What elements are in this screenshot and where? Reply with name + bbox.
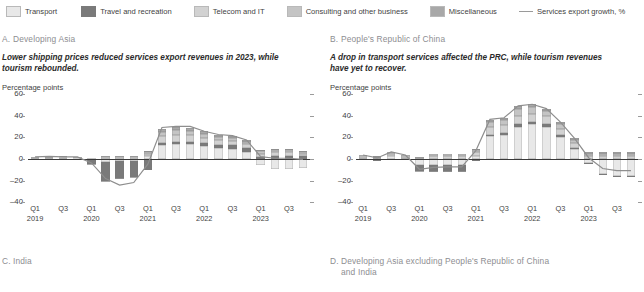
x-axis-labels: Q12019Q3Q12020Q3Q12021Q3Q12022Q3Q12023Q3: [28, 204, 310, 228]
y-axis-tick: [21, 137, 25, 138]
y-axis-label: –40: [327, 197, 351, 206]
y-axis-tick-right: [638, 116, 642, 117]
y-axis-label: 0: [327, 154, 351, 163]
y-axis-tick-right: [310, 181, 314, 182]
legend-label-miscellaneous: Miscellaneous: [449, 7, 497, 16]
y-axis-tick-right: [638, 202, 642, 203]
panel-c: C.India: [2, 256, 316, 266]
y-axis-tick: [21, 116, 25, 117]
x-axis-year-label: 2020: [407, 214, 431, 223]
panel-a-plot: –40–200204060Q12019Q3Q12020Q3Q12021Q3Q12…: [2, 94, 316, 202]
x-axis-quarter-label: Q1: [138, 204, 158, 213]
x-axis-quarter-label: Q1: [251, 204, 271, 213]
x-axis-quarter-label: Q1: [409, 204, 429, 213]
x-axis-year-label: 2023: [577, 214, 601, 223]
panel-a-title: A.Developing Asia: [2, 34, 316, 44]
legend-label-services-export-growth: Services export growth, %: [537, 7, 625, 16]
panel-b-title: B.People's Republic of China: [330, 34, 644, 44]
x-axis-quarter-label: Q1: [466, 204, 486, 213]
y-axis-tick: [21, 181, 25, 182]
panel-a-title-text: Developing Asia: [13, 34, 75, 44]
x-axis-year-label: 2019: [351, 214, 375, 223]
panel-b-plot: –40–200204060Q12019Q3Q12020Q3Q12021Q3Q12…: [330, 94, 644, 202]
legend-item-services-export-growth: Services export growth, %: [519, 7, 625, 16]
y-axis-tick: [349, 94, 353, 95]
panel-c-letter: C.: [2, 256, 13, 266]
y-axis-tick: [21, 94, 25, 95]
y-axis-label: 20: [327, 132, 351, 141]
panel-a-subtitle: Lower shipping prices reduced services e…: [2, 52, 294, 74]
legend-line-icon: [519, 11, 533, 12]
panel-b-axis-title: Percentage points: [330, 83, 644, 92]
x-axis-quarter-label: Q3: [550, 204, 570, 213]
x-axis-quarter-label: Q3: [438, 204, 458, 213]
legend-label-consulting: Consulting and other business: [306, 7, 408, 16]
legend-swatch-travel-recreation: [81, 6, 96, 17]
panel-b: B.People's Republic of China A drop in t…: [330, 34, 644, 202]
y-axis-tick: [349, 137, 353, 138]
x-axis-quarter-label: Q3: [494, 204, 514, 213]
x-axis-quarter-label: Q3: [110, 204, 130, 213]
services-export-growth-line: [28, 94, 310, 202]
panel-d-title: D.Developing Asia excluding People's Rep…: [330, 256, 560, 277]
y-axis-label: 40: [327, 111, 351, 120]
y-axis-label: 40: [0, 111, 23, 120]
y-axis-tick-right: [638, 137, 642, 138]
x-axis-year-label: 2021: [464, 214, 488, 223]
y-axis-tick: [349, 159, 353, 160]
x-axis-quarter-label: Q3: [166, 204, 186, 213]
y-axis-tick-right: [310, 94, 314, 95]
y-axis-tick-right: [310, 116, 314, 117]
x-axis-quarter-label: Q3: [381, 204, 401, 213]
x-axis-quarter-label: Q1: [353, 204, 373, 213]
y-axis-tick: [349, 116, 353, 117]
x-axis-quarter-label: Q1: [522, 204, 542, 213]
y-axis-label: 60: [327, 89, 351, 98]
y-axis-label: –20: [327, 176, 351, 185]
legend-swatch-consulting: [287, 6, 302, 17]
x-axis-quarter-label: Q3: [279, 204, 299, 213]
x-axis-quarter-label: Q3: [607, 204, 627, 213]
x-axis-quarter-label: Q1: [579, 204, 599, 213]
x-axis-quarter-label: Q3: [222, 204, 242, 213]
legend-swatch-transport: [6, 6, 21, 17]
y-axis-tick-right: [310, 202, 314, 203]
legend-label-travel-recreation: Travel and recreation: [100, 7, 171, 16]
x-axis-year-label: 2022: [520, 214, 544, 223]
x-axis-quarter-label: Q3: [53, 204, 73, 213]
y-axis-label: –40: [0, 197, 23, 206]
legend-label-transport: Transport: [25, 7, 57, 16]
y-axis-tick-right: [310, 159, 314, 160]
y-axis-label: 20: [0, 132, 23, 141]
services-export-growth-line: [356, 94, 638, 202]
panel-d-title-text: Developing Asia excluding People's Repub…: [341, 256, 551, 277]
legend-label-telecom-it: Telecom and IT: [213, 7, 265, 16]
legend-item-telecom-it: Telecom and IT: [194, 6, 265, 17]
y-axis-tick-right: [638, 159, 642, 160]
y-axis-tick: [349, 202, 353, 203]
x-axis-quarter-label: Q1: [25, 204, 45, 213]
x-axis-year-label: 2019: [23, 214, 47, 223]
panel-a-axis-title: Percentage points: [2, 83, 316, 92]
x-axis-quarter-label: Q1: [81, 204, 101, 213]
panel-a-letter: A.: [2, 34, 13, 44]
x-axis-year-label: 2020: [79, 214, 103, 223]
panel-b-letter: B.: [330, 34, 341, 44]
y-axis-label: 0: [0, 154, 23, 163]
x-axis-year-label: 2021: [136, 214, 160, 223]
legend-item-transport: Transport: [6, 6, 57, 17]
x-axis-quarter-label: Q1: [194, 204, 214, 213]
chart-legend: Transport Travel and recreation Telecom …: [0, 4, 634, 18]
x-axis-year-label: 2022: [192, 214, 216, 223]
y-axis-tick-right: [638, 94, 642, 95]
panel-d-letter: D.: [330, 256, 341, 267]
legend-item-travel-recreation: Travel and recreation: [81, 6, 171, 17]
y-axis-tick-right: [638, 181, 642, 182]
panel-b-subtitle: A drop in transport services affected th…: [330, 52, 622, 74]
y-axis-label: –20: [0, 176, 23, 185]
panel-c-title-text: India: [13, 256, 32, 266]
y-axis-tick: [349, 181, 353, 182]
panel-c-title: C.India: [2, 256, 316, 266]
x-axis-labels: Q12019Q3Q12020Q3Q12021Q3Q12022Q3Q12023Q3: [356, 204, 638, 228]
